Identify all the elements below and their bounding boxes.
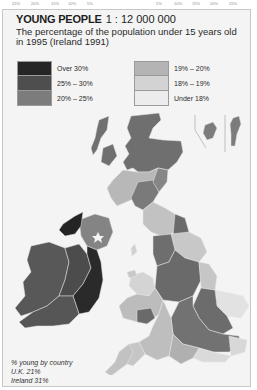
legend-swatch — [134, 61, 169, 76]
region-lincolnshire — [199, 262, 217, 290]
legend-item-18-19: 18% – 19% — [134, 76, 210, 91]
legend-swatch — [17, 76, 52, 91]
region-donegal — [59, 212, 83, 236]
legend-item-20-25: 20% – 25% — [17, 91, 93, 106]
legend-label: Over 30% — [57, 65, 88, 72]
axis-tick: 25% — [12, 1, 20, 6]
choropleth-map — [3, 105, 250, 375]
axis-tick: 5% — [156, 1, 162, 6]
summary-heading: % young by country — [11, 358, 72, 367]
region-orkney — [203, 122, 217, 140]
axis-tick: 10% — [68, 1, 76, 6]
legend-swatch — [134, 76, 169, 91]
legend-label: 25% – 30% — [57, 80, 93, 87]
legend-swatch — [134, 91, 169, 106]
legend-label: 20% – 25% — [57, 95, 93, 102]
axis-tick: 25% — [229, 1, 237, 6]
top-axis-fragment: 25% 20% 15% 10% 5% 5% 10% 15% 20% 25% — [0, 0, 257, 8]
region-isle-of-man — [131, 244, 137, 256]
region-kent — [229, 336, 247, 356]
legend-label: 18% – 19% — [174, 80, 210, 87]
summary-uk: U.K. 21% — [11, 367, 72, 376]
legend-item-over-30: Over 30% — [17, 61, 88, 76]
legend-swatch — [17, 91, 52, 106]
legend-label: 19% – 20% — [174, 65, 210, 72]
axis-tick: 15% — [192, 1, 200, 6]
axis-tick: 5% — [87, 1, 93, 6]
map-subtitle: The percentage of the population under 1… — [16, 27, 241, 47]
summary-ireland: Ireland 31% — [11, 376, 72, 385]
legend-label: Under 18% — [174, 95, 209, 102]
legend-item-19-20: 19% – 20% — [134, 61, 210, 76]
map-title: YOUNG PEOPLE1 : 12 000 000 — [16, 13, 176, 25]
legend-swatch — [17, 61, 52, 76]
axis-tick: 10% — [174, 1, 182, 6]
region-northern-ireland — [79, 214, 113, 250]
country-summary: % young by country U.K. 21% Ireland 31% — [11, 358, 72, 385]
title-text: YOUNG PEOPLE — [16, 13, 102, 25]
axis-tick: 15% — [51, 1, 59, 6]
legend-item-under-18: Under 18% — [134, 91, 209, 106]
region-cornwall — [105, 344, 133, 375]
map-scale: 1 : 12 000 000 — [106, 13, 176, 25]
axis-tick: 20% — [210, 1, 218, 6]
region-scotland-highlands — [123, 113, 183, 172]
region-inner-hebrides — [101, 144, 117, 166]
legend-item-25-30: 25% – 30% — [17, 76, 93, 91]
region-shetland — [230, 116, 241, 146]
axis-tick: 20% — [31, 1, 39, 6]
